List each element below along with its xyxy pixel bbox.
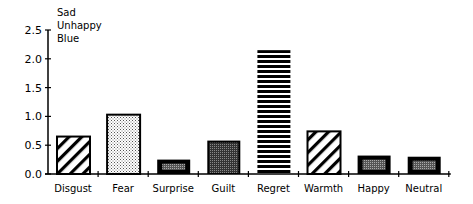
bar-happy: [358, 156, 391, 174]
x-category-label: Guilt: [212, 183, 236, 194]
chart-title: SadUnhappyBlue: [57, 7, 102, 44]
x-category-label: Fear: [112, 183, 134, 194]
x-axis: DisgustFearSurpriseGuiltRegretWarmthHapp…: [45, 171, 451, 194]
bar-surprise: [157, 160, 190, 174]
bars: [57, 50, 441, 174]
chart-title-line: Unhappy: [57, 20, 102, 31]
y-tick-label: 1.0: [25, 110, 43, 123]
x-category-label: Neutral: [405, 183, 442, 194]
y-tick-label: 2.5: [25, 24, 43, 37]
y-tick-label: 2.0: [25, 53, 43, 66]
bar-guilt: [207, 141, 240, 174]
y-tick-label: 0.5: [25, 139, 43, 152]
x-category-label: Disgust: [54, 183, 92, 194]
bar-disgust: [57, 137, 90, 174]
x-category-label: Warmth: [304, 183, 343, 194]
bar-chart: SadUnhappyBlue 0.00.51.01.52.02.5 Disgus…: [0, 0, 473, 204]
bar-regret: [257, 50, 290, 174]
x-category-label: Surprise: [153, 183, 194, 194]
y-axis: 0.00.51.01.52.02.5: [25, 24, 52, 181]
x-category-label: Happy: [358, 183, 390, 194]
y-tick-label: 0.0: [25, 168, 43, 181]
x-category-label: Regret: [257, 183, 290, 194]
bar-fear: [107, 115, 140, 174]
chart-title-line: Sad: [57, 7, 76, 18]
bar-neutral: [408, 157, 441, 174]
y-tick-label: 1.5: [25, 82, 43, 95]
chart-title-line: Blue: [57, 33, 79, 44]
bar-warmth: [308, 131, 341, 174]
